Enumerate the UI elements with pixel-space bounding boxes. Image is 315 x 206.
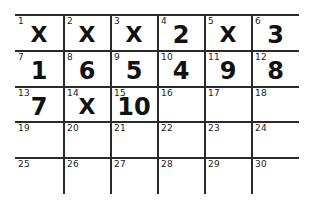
cell-number: 18 (255, 89, 267, 98)
grid-cell: 16 (158, 88, 204, 121)
grid-cell: 17 (205, 88, 251, 121)
grid-cell: 3X (111, 16, 157, 50)
cell-value: 7 (15, 95, 63, 119)
cell-number: 29 (208, 160, 220, 169)
cell-number: 27 (114, 160, 126, 169)
grid-cell: 95 (111, 52, 157, 86)
grid-cell: 1X (15, 16, 63, 50)
cell-value: 8 (252, 59, 299, 83)
grid-cell: 63 (252, 16, 299, 50)
grid-cell: 28 (158, 159, 204, 193)
cell-number: 20 (67, 124, 79, 133)
cell-value: 3 (252, 23, 299, 47)
grid-cell: 5X (205, 16, 251, 50)
grid-cell: 104 (158, 52, 204, 86)
grid-cell: 25 (15, 159, 63, 193)
grid-cell: 22 (158, 123, 204, 157)
grid-cell: 29 (205, 159, 251, 193)
grid-cell: 18 (252, 88, 299, 121)
numbered-grid: 1X2X3X425X6371869510411912813714X1510161… (0, 0, 315, 206)
cross-mark: X (64, 96, 110, 118)
grid-cell: 20 (64, 123, 110, 157)
cell-number: 26 (67, 160, 79, 169)
cell-number: 30 (255, 160, 267, 169)
grid-cell: 128 (252, 52, 299, 86)
cell-value: 2 (158, 23, 204, 47)
cell-value: 10 (111, 95, 157, 119)
grid-cell: 30 (252, 159, 299, 193)
cell-value: 1 (15, 59, 63, 83)
cell-number: 19 (18, 124, 30, 133)
cross-mark: X (205, 24, 251, 46)
grid-cell: 137 (15, 88, 63, 121)
grid-cell: 26 (64, 159, 110, 193)
grid-cell: 86 (64, 52, 110, 86)
cross-mark: X (64, 24, 110, 46)
grid-cell: 23 (205, 123, 251, 157)
grid-cell: 119 (205, 52, 251, 86)
grid-cell: 1510 (111, 88, 157, 121)
grid-cell: 27 (111, 159, 157, 193)
cell-value: 9 (205, 59, 251, 83)
cell-number: 22 (161, 124, 173, 133)
grid-cell: 14X (64, 88, 110, 121)
cross-mark: X (15, 24, 63, 46)
grid-cell: 71 (15, 52, 63, 86)
cell-number: 24 (255, 124, 267, 133)
grid-cell: 21 (111, 123, 157, 157)
grid-cell: 24 (252, 123, 299, 157)
grid-cell: 2X (64, 16, 110, 50)
cell-number: 21 (114, 124, 126, 133)
grid-cell: 19 (15, 123, 63, 157)
cell-number: 28 (161, 160, 173, 169)
cell-value: 6 (64, 59, 110, 83)
cell-number: 16 (161, 89, 173, 98)
cell-number: 25 (18, 160, 30, 169)
cross-mark: X (111, 24, 157, 46)
cell-number: 23 (208, 124, 220, 133)
cell-number: 17 (208, 89, 220, 98)
grid-cell: 42 (158, 16, 204, 50)
cell-value: 5 (111, 59, 157, 83)
cell-value: 4 (158, 59, 204, 83)
